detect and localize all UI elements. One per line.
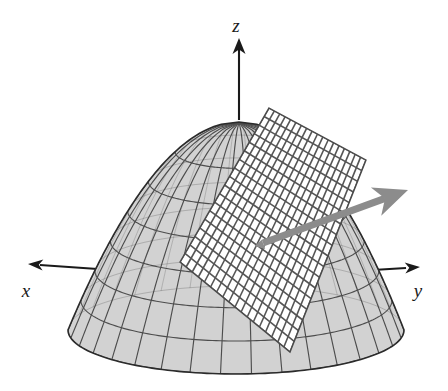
y-axis-label: y [412,280,423,301]
z-axis: z [231,15,245,120]
tangent-plane-diagram: z x y [0,0,448,391]
x-axis-label: x [21,280,31,301]
figure-canvas: z x y [0,0,448,391]
z-axis-label: z [231,15,240,36]
y-axis-arrowhead [405,262,420,273]
